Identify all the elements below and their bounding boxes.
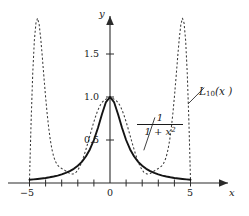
y-tick-label-1-5: 1.5 — [84, 49, 99, 59]
runge-phenomenon-figure: y x −5 0 5 0.5 1.0 1.5 L10(x ) 1 1 + x2 — [0, 0, 249, 216]
runge-function-label: 1 1 + x2 — [137, 112, 183, 137]
y-tick-label-0-5: 0.5 — [84, 135, 99, 145]
runge-denominator: 1 + x2 — [137, 126, 183, 137]
y-axis-arrowhead — [106, 16, 114, 25]
x-tick-label-minus-5: −5 — [20, 188, 34, 198]
plot-canvas — [0, 0, 249, 216]
runge-numerator: 1 — [137, 112, 183, 123]
runge-denominator-base: 1 + x — [144, 126, 171, 137]
interpolant-label: L10(x ) — [199, 86, 232, 98]
runge-denominator-exponent: 2 — [171, 126, 175, 134]
interpolant-label-subscript: 10 — [206, 90, 215, 98]
x-tick-label-5: 5 — [187, 188, 193, 198]
x-axis-arrowhead — [219, 179, 228, 187]
fraction-bar — [137, 124, 183, 125]
y-axis-label: y — [99, 9, 105, 19]
interpolant-label-argument: (x ) — [215, 85, 232, 97]
y-tick-label-1-0: 1.0 — [84, 92, 99, 102]
x-tick-label-0: 0 — [107, 188, 113, 198]
interpolant-label-base: L — [199, 85, 206, 97]
x-axis-label: x — [229, 188, 235, 198]
